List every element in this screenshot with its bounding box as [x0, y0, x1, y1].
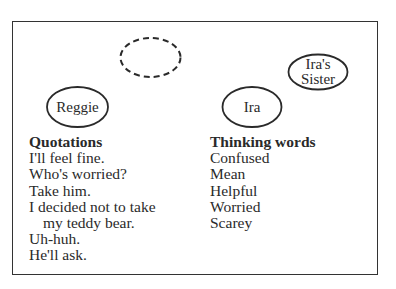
quotation-item: I'll feel fine. — [29, 150, 156, 166]
quotation-item: my teddy bear. — [29, 215, 156, 231]
thinking-words-list: Thinking words Confused Mean Helpful Wor… — [210, 134, 316, 231]
ira-label: Ira — [222, 99, 282, 115]
quotation-item: Take him. — [29, 183, 156, 199]
quotation-item: Who's worried? — [29, 166, 156, 182]
thinking-words-heading: Thinking words — [210, 134, 316, 150]
thinking-word-item: Confused — [210, 150, 316, 166]
quotation-item: He'll ask. — [29, 247, 156, 263]
thinking-word-item: Worried — [210, 199, 316, 215]
iras-sister-label-line2: Sister — [288, 71, 348, 87]
iras-sister-label-line1: Ira's — [288, 56, 348, 72]
thinking-word-item: Mean — [210, 166, 316, 182]
thinking-word-item: Helpful — [210, 183, 316, 199]
quotation-item: I decided not to take — [29, 199, 156, 215]
quotations-list: Quotations I'll feel fine. Who's worried… — [29, 134, 156, 264]
quotation-item: Uh-huh. — [29, 231, 156, 247]
quotations-heading: Quotations — [29, 134, 156, 150]
empty-dashed-bubble — [121, 38, 181, 77]
reggie-label: Reggie — [47, 99, 108, 115]
thinking-word-item: Scarey — [210, 215, 316, 231]
